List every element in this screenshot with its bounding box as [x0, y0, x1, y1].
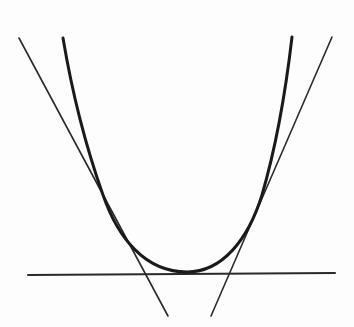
diagram-canvas [0, 0, 354, 327]
tangent-lines-diagram: Convex curve with three tangent lines: o… [0, 0, 354, 327]
figure-description: Convex curve with three tangent lines: o… [0, 303, 354, 327]
convex-curve [63, 37, 292, 272]
